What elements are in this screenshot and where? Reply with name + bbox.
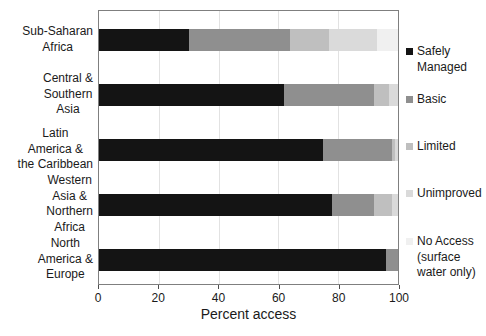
bar-segment [99, 139, 323, 161]
bar-segment [329, 29, 377, 51]
x-tick-mark [279, 285, 280, 289]
bar-segment [99, 249, 386, 271]
bar-segment [99, 84, 284, 106]
plot-area [98, 10, 399, 285]
bar-segment [377, 29, 398, 51]
x-tick-label: 40 [212, 291, 225, 305]
legend-label: Basic [417, 92, 446, 108]
bar-row [99, 249, 398, 271]
y-axis-label: Central & Southern Asia [43, 71, 93, 118]
bar-segment [386, 249, 398, 271]
legend-label: Safely Managed [417, 44, 467, 75]
legend-swatch-icon [406, 190, 413, 197]
x-tick-label: 80 [332, 291, 345, 305]
y-axis-label: Latin America & the Caribbean [18, 126, 93, 173]
y-axis-label: Sub-Saharan Africa [22, 24, 93, 55]
x-tick-mark [399, 285, 400, 289]
legend-swatch-icon [406, 48, 413, 55]
bar-segment [392, 194, 398, 216]
bar-segment [374, 194, 392, 216]
x-tick-label: 60 [272, 291, 285, 305]
legend-swatch-icon [406, 143, 413, 150]
y-axis-label: North America & Europe [38, 236, 93, 283]
stacked-bar-chart-figure: Sub-Saharan AfricaCentral & Southern Asi… [0, 0, 486, 336]
x-tick-label: 20 [152, 291, 165, 305]
bar-segment [374, 84, 389, 106]
bar-segment [99, 29, 189, 51]
x-tick-mark [218, 285, 219, 289]
legend-item: Unimproved [406, 186, 482, 202]
legend-label: Limited [417, 139, 456, 155]
bar-row [99, 194, 398, 216]
bar-row [99, 29, 398, 51]
legend-label: No Access (surface water only) [417, 234, 476, 281]
bar-row [99, 139, 398, 161]
y-axis-label: Western Asia & Northern Africa [46, 173, 93, 235]
bar-segment [284, 84, 374, 106]
legend-item: Limited [406, 139, 456, 155]
legend-item: No Access (surface water only) [406, 234, 476, 281]
bar-row [99, 84, 398, 106]
bar-segment [99, 194, 332, 216]
legend: Safely ManagedBasicLimitedUnimprovedNo A… [406, 0, 486, 336]
legend-item: Safely Managed [406, 44, 467, 75]
x-axis-title: Percent access [98, 306, 399, 322]
legend-label: Unimproved [417, 186, 482, 202]
legend-item: Basic [406, 92, 446, 108]
x-tick-label: 0 [95, 291, 102, 305]
bar-segment [395, 139, 398, 161]
legend-swatch-icon [406, 238, 413, 245]
bar-segment [389, 84, 398, 106]
bar-segment [323, 139, 392, 161]
bar-segment [189, 29, 291, 51]
x-tick-mark [339, 285, 340, 289]
x-tick-mark [98, 285, 99, 289]
legend-swatch-icon [406, 96, 413, 103]
bar-segment [332, 194, 374, 216]
bar-segment [290, 29, 329, 51]
x-tick-mark [158, 285, 159, 289]
